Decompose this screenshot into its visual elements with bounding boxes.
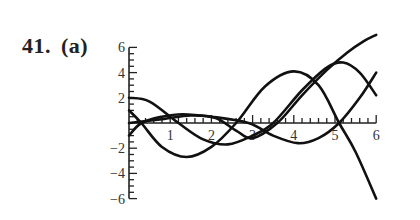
y-tick-label: −6 (110, 192, 125, 207)
y-tick-label: −4 (110, 166, 125, 181)
line-chart: −6−4−2246123456 (0, 0, 420, 220)
y-tick-label: 2 (118, 91, 125, 106)
x-tick-label: 1 (167, 128, 174, 143)
x-tick-label: 6 (373, 128, 380, 143)
y-tick-label: −2 (110, 141, 125, 156)
y-tick-label: 6 (118, 40, 125, 55)
y-tick-label: 4 (118, 66, 125, 81)
